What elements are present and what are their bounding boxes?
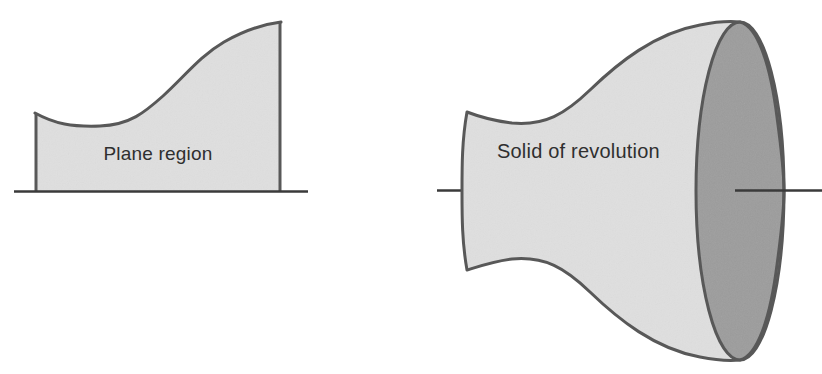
figure-page: Plane region Solid of revolution xyxy=(0,0,822,374)
solid-of-revolution-figure: Solid of revolution xyxy=(437,22,822,361)
plane-region-shape xyxy=(35,22,281,191)
plane-region-label: Plane region xyxy=(103,143,212,164)
solid-of-revolution-label: Solid of revolution xyxy=(497,140,660,162)
plane-region-figure: Plane region xyxy=(14,22,308,192)
figure-canvas: Plane region Solid of revolution xyxy=(0,0,822,374)
